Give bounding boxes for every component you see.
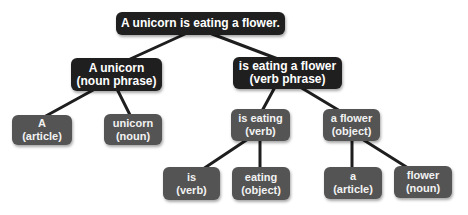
node-label: a flower: [331, 112, 373, 125]
node-unicorn-noun: unicorn (noun): [104, 114, 162, 145]
node-eating-object: eating (object): [232, 167, 290, 200]
node-noun-phrase: A unicorn (noun phrase): [71, 58, 162, 91]
edge-verb-phrase-verb: [262, 87, 275, 111]
edge-noun-phrase-article: [44, 89, 95, 117]
node-label: A: [38, 117, 46, 130]
node-label: eating: [245, 171, 277, 184]
node-category: (verb): [176, 184, 207, 197]
edge-root-noun-phrase: [128, 34, 185, 60]
node-category: (noun phrase): [77, 75, 157, 88]
node-category: (article): [22, 130, 62, 143]
node-is-eating-verb: is eating (verb): [231, 109, 290, 141]
edge-verb-phrase-object: [300, 87, 340, 111]
node-label: A unicorn: [89, 62, 145, 75]
node-label: A unicorn is eating a flower.: [121, 17, 280, 30]
node-verb-phrase: is eating a flower (verb phrase): [233, 57, 342, 89]
node-category: (verb phrase): [249, 73, 325, 86]
node-label: is eating: [238, 112, 283, 125]
edge-root-verb-phrase: [212, 34, 278, 59]
node-category: (noun): [116, 130, 150, 143]
node-label: is: [187, 171, 196, 184]
node-category: (noun): [406, 182, 440, 195]
node-a-flower-object: a flower (object): [323, 109, 380, 141]
node-is-verb: is (verb): [163, 167, 220, 200]
node-a-article: A (article): [12, 115, 72, 145]
node-category: (object): [332, 125, 372, 138]
edge-verb-is: [203, 139, 248, 169]
node-label: flower: [407, 169, 439, 182]
edge-object-noun: [362, 139, 408, 168]
node-root-sentence: A unicorn is eating a flower.: [116, 12, 285, 35]
edge-noun-phrase-noun: [117, 89, 130, 115]
node-flower-noun: flower (noun): [394, 166, 452, 198]
node-category: (article): [333, 183, 373, 196]
node-label: unicorn: [113, 117, 153, 130]
node-a-article-2: a (article): [324, 167, 382, 199]
node-category: (verb): [245, 125, 276, 138]
node-label: a: [350, 170, 356, 183]
node-category: (object): [241, 184, 281, 197]
